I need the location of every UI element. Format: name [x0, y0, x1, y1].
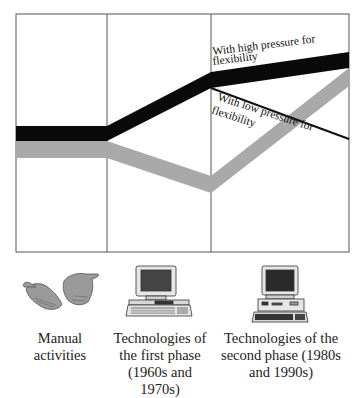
- hands-icon: [23, 273, 98, 309]
- phase-caption-manual: Manual activities: [14, 330, 106, 364]
- caption-line: Manual: [14, 330, 106, 347]
- computer-second-phase-icon: [252, 266, 308, 322]
- caption-line: Technologies of: [108, 330, 212, 347]
- caption-line: second phase (1980s: [216, 347, 346, 364]
- caption-line: (1960s and 1970s): [108, 364, 212, 398]
- caption-line: the first phase: [108, 347, 212, 364]
- phase-caption-second: Technologies of the second phase (1980s …: [216, 330, 346, 381]
- phase-caption-first: Technologies of the first phase (1960s a…: [108, 330, 212, 398]
- caption-line: activities: [14, 347, 106, 364]
- caption-line: and 1990s): [216, 364, 346, 381]
- computer-first-phase-icon: [126, 266, 192, 316]
- caption-line: Technologies of the: [216, 330, 346, 347]
